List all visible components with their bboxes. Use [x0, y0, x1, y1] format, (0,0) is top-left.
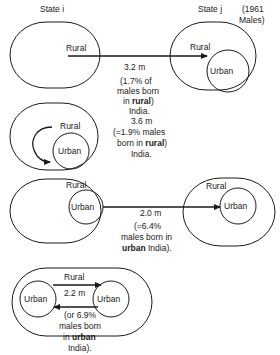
rural-label: Rural [60, 121, 80, 131]
flow-value: 2.2 m [64, 288, 85, 298]
urban-label: Urban [71, 202, 94, 212]
urban-label: Urban [97, 294, 120, 304]
flow-note: born in rural) [117, 138, 167, 148]
urban-label: Urban [224, 201, 247, 211]
flow-note: India). [68, 343, 92, 353]
flow-note: India. [129, 106, 150, 116]
rural-label: Rural [206, 181, 226, 191]
rural-label: Rural [190, 42, 210, 52]
flow-note: males born [117, 86, 159, 96]
year-label-line2: Males) [239, 15, 265, 25]
flow-row-1: Rural Rural Urban 3.2 m (1.7% of males b… [10, 22, 256, 116]
state-j-region [183, 178, 275, 246]
flow-note: urban India). [122, 243, 172, 253]
state-i-label: State i [40, 4, 64, 14]
state-i-region [10, 22, 100, 88]
flow-note: India. [131, 149, 152, 159]
flow-note: (=6.4% [134, 221, 162, 231]
flow-value: 3.6 m [131, 116, 152, 126]
flow-value: 3.2 m [124, 62, 145, 72]
curved-flow-arrow [33, 127, 52, 162]
rural-label: Rural [66, 180, 86, 190]
rural-label: Rural [66, 43, 86, 53]
rural-label: Rural [64, 272, 84, 282]
flow-value: 2.0 m [140, 208, 161, 218]
flow-note: (1.7% of [120, 76, 152, 86]
urban-label: Urban [58, 146, 81, 156]
urban-label: Urban [210, 66, 233, 76]
state-j-label: State j [198, 4, 222, 14]
flow-note: males born in [121, 232, 172, 242]
flow-note: males born [59, 321, 101, 331]
flow-note: in urban [63, 332, 96, 342]
flow-note: in rural) [123, 96, 154, 106]
flow-row-4: Rural Urban Urban 2.2 m (or 6.9% males b… [12, 268, 152, 353]
state-region [10, 103, 98, 170]
year-label-line1: (1961 [242, 4, 264, 14]
flow-row-3: Rural Urban Rural Urban 2.0 m (=6.4% mal… [10, 178, 275, 253]
migration-diagram: State i State j (1961 Males) Rural Rural… [0, 0, 280, 355]
flow-note: (=1.9% males [113, 127, 165, 137]
urban-label: Urban [24, 294, 47, 304]
flow-note: (or 6.9% [64, 310, 97, 320]
